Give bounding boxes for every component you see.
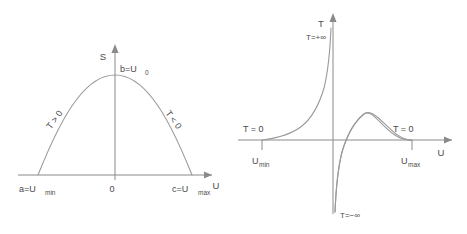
origin-label-entropy: 0: [109, 184, 114, 194]
peak-label-b-u0: b=U 0: [120, 64, 149, 76]
u-min-subscript: min: [259, 161, 270, 168]
entropy-vs-energy-chart: S U b=U 0 a=U min 0 c=U max T > 0 T < 0: [0, 0, 230, 234]
t-minus-infinity-label: T=−∞: [340, 211, 360, 220]
u-max-subscript: max: [408, 161, 421, 168]
t-plus-infinity-label: T=+∞: [306, 33, 326, 42]
u-min-label: U min: [252, 156, 270, 168]
y-axis-label-temperature: T: [318, 18, 324, 29]
right-root-subscript: max: [198, 189, 211, 196]
left-root-text: a=U: [19, 184, 36, 194]
y-axis-label-entropy: S: [100, 51, 106, 62]
u-min-text: U: [252, 156, 259, 166]
t-zero-left-label: T = 0: [243, 124, 264, 134]
right-root-text: c=U: [172, 184, 188, 194]
t-zero-right-label: T = 0: [393, 124, 414, 134]
peak-label-text: b=U: [120, 64, 137, 74]
u-max-label: U max: [401, 156, 421, 168]
peak-label-subscript: 0: [145, 69, 149, 76]
physics-diagram-figure: S U b=U 0 a=U min 0 c=U max T > 0 T < 0: [0, 0, 467, 234]
right-root-label-c-umax: c=U max: [172, 184, 211, 196]
positive-temperature-curve: [262, 28, 331, 140]
u-max-text: U: [401, 156, 408, 166]
x-axis-label-temperature: U: [438, 147, 445, 158]
left-root-label-a-umin: a=U min: [19, 184, 56, 196]
x-axis-label-entropy: U: [213, 180, 220, 191]
temperature-vs-energy-chart: T U T=+∞ T=−∞ T = 0 T = 0 U min U max: [230, 0, 467, 234]
positive-temperature-branch-label: T > 0: [44, 108, 64, 130]
left-root-subscript: min: [45, 189, 56, 196]
y-axis-entropy: [112, 44, 119, 180]
